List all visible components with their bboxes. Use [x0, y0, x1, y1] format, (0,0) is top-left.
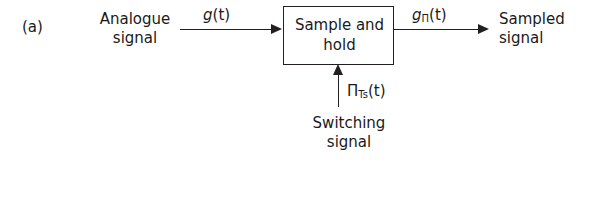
input-signal-caption: Analogue signal: [78, 10, 192, 48]
input-signal-base: g: [203, 6, 213, 24]
output-signal-arg: (t): [429, 6, 447, 24]
switching-signal-arg: (t): [368, 82, 386, 100]
switching-signal-subscript: Ts: [358, 89, 368, 100]
output-arrowhead-icon: [478, 24, 489, 34]
block-label-line2: hold: [284, 35, 395, 55]
figure-canvas: (a) Analogue signal g(t) Sample and hold…: [0, 0, 606, 198]
switching-signal-label: ΠTs(t): [347, 82, 386, 100]
input-signal-arg: (t): [213, 6, 231, 24]
switching-caption-line2: signal: [288, 133, 410, 152]
output-signal-caption: Sampled signal: [499, 10, 594, 48]
sample-and-hold-block: Sample and hold: [283, 6, 394, 65]
block-label-line1: Sample and: [284, 15, 395, 35]
output-caption-line1: Sampled: [499, 10, 594, 29]
switching-wire: [338, 74, 339, 107]
switching-caption-line1: Switching: [288, 114, 410, 133]
input-signal-label: g(t): [203, 6, 230, 24]
output-signal-base: g: [412, 6, 422, 24]
switching-signal-caption: Switching signal: [288, 114, 410, 152]
output-signal-subscript: Π: [422, 13, 430, 24]
output-caption-line2: signal: [499, 29, 594, 48]
input-wire: [180, 29, 272, 30]
sample-and-hold-block-label: Sample and hold: [284, 15, 395, 55]
switching-signal-base: Π: [347, 82, 358, 100]
input-caption-line2: signal: [78, 29, 192, 48]
output-signal-label: gΠ(t): [412, 6, 447, 24]
output-wire: [394, 29, 479, 30]
input-arrowhead-icon: [271, 24, 282, 34]
switching-arrowhead-icon: [333, 64, 343, 75]
panel-label: (a): [22, 18, 43, 37]
input-caption-line1: Analogue: [78, 10, 192, 29]
